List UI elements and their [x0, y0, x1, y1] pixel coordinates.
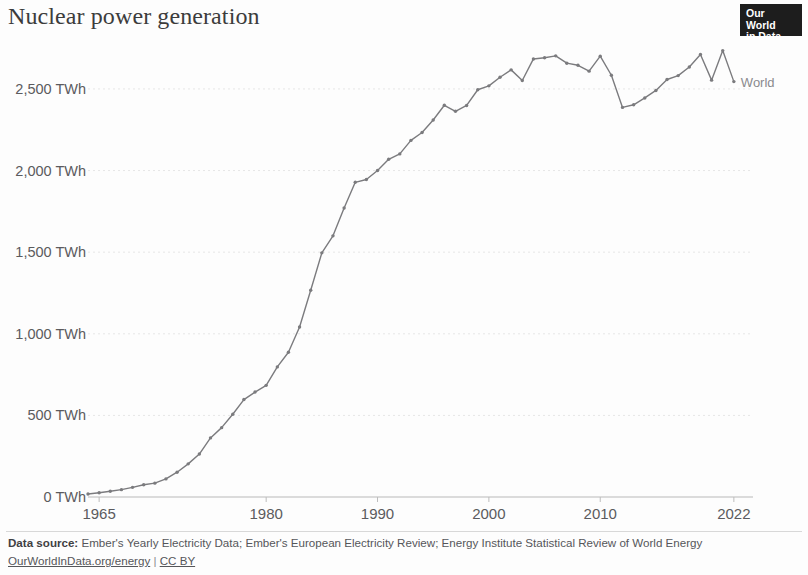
y-tick-label: 0 TWh — [44, 489, 86, 505]
data-point[interactable] — [287, 351, 290, 354]
data-point[interactable] — [476, 88, 479, 91]
data-point[interactable] — [487, 84, 490, 87]
data-point[interactable] — [264, 384, 267, 387]
data-point[interactable] — [543, 56, 546, 59]
data-point[interactable] — [164, 477, 167, 480]
data-point[interactable] — [175, 470, 178, 473]
x-axis-line — [99, 497, 734, 502]
data-point[interactable] — [86, 492, 89, 495]
data-point[interactable] — [521, 79, 524, 82]
data-point[interactable] — [498, 76, 501, 79]
data-point[interactable] — [699, 53, 702, 56]
y-tick-label: 1,500 TWh — [15, 244, 86, 260]
data-point[interactable] — [365, 178, 368, 181]
y-tick-label: 2,000 TWh — [15, 163, 86, 179]
data-point[interactable] — [242, 398, 245, 401]
data-point[interactable] — [97, 491, 100, 494]
x-tick-label: 1980 — [249, 505, 282, 522]
x-tick-label: 2000 — [472, 505, 505, 522]
data-point[interactable] — [409, 139, 412, 142]
data-point[interactable] — [443, 104, 446, 107]
data-point[interactable] — [198, 452, 201, 455]
x-tick-label: 1990 — [361, 505, 394, 522]
footer: Data source: Ember's Yearly Electricity … — [8, 534, 802, 569]
chart-page: Nuclear power generation Our World in Da… — [0, 0, 808, 575]
data-point[interactable] — [465, 104, 468, 107]
data-point[interactable] — [532, 57, 535, 60]
data-point[interactable] — [432, 118, 435, 121]
plot-area: 0 TWh500 TWh1,000 TWh1,500 TWh2,000 TWh2… — [0, 0, 808, 535]
data-point[interactable] — [309, 289, 312, 292]
data-point[interactable] — [420, 131, 423, 134]
series-label-world: World — [741, 74, 775, 89]
data-point[interactable] — [298, 325, 301, 328]
data-point[interactable] — [320, 251, 323, 254]
data-point[interactable] — [220, 426, 223, 429]
data-point[interactable] — [398, 152, 401, 155]
footer-links: OurWorldInData.org/energy | CC BY — [8, 552, 802, 569]
data-point[interactable] — [632, 103, 635, 106]
x-tick-label: 1965 — [82, 505, 115, 522]
data-point[interactable] — [376, 169, 379, 172]
data-source-text: Ember's Yearly Electricity Data; Ember's… — [81, 536, 702, 549]
data-point[interactable] — [721, 49, 724, 52]
data-point[interactable] — [276, 365, 279, 368]
x-tick-label: 2022 — [717, 505, 750, 522]
y-tick-label: 500 TWh — [27, 407, 86, 423]
y-tick-label: 2,500 TWh — [15, 81, 86, 97]
data-point[interactable] — [654, 89, 657, 92]
gridlines — [88, 89, 753, 497]
data-point[interactable] — [387, 158, 390, 161]
data-point[interactable] — [209, 436, 212, 439]
data-point[interactable] — [187, 462, 190, 465]
data-point[interactable] — [665, 78, 668, 81]
footer-separator: | — [153, 554, 156, 567]
data-point[interactable] — [732, 80, 735, 83]
data-point[interactable] — [131, 486, 134, 489]
data-point[interactable] — [120, 488, 123, 491]
footer-divider — [6, 531, 802, 532]
owid-energy-link[interactable]: OurWorldInData.org/energy — [8, 554, 150, 567]
data-point[interactable] — [331, 234, 334, 237]
data-point[interactable] — [342, 206, 345, 209]
data-source-label: Data source: — [8, 536, 78, 549]
data-point[interactable] — [142, 483, 145, 486]
data-point[interactable] — [554, 54, 557, 57]
data-point[interactable] — [610, 74, 613, 77]
line-chart-svg — [0, 0, 808, 535]
license-link[interactable]: CC BY — [160, 554, 195, 567]
series-lines — [88, 51, 734, 494]
data-point[interactable] — [231, 413, 234, 416]
data-point[interactable] — [688, 65, 691, 68]
data-point[interactable] — [109, 490, 112, 493]
data-point[interactable] — [565, 61, 568, 64]
data-source-line: Data source: Ember's Yearly Electricity … — [8, 534, 802, 551]
series-markers — [86, 49, 735, 496]
data-point[interactable] — [354, 181, 357, 184]
data-point[interactable] — [621, 106, 624, 109]
data-point[interactable] — [710, 78, 713, 81]
data-point[interactable] — [599, 54, 602, 57]
y-tick-label: 1,000 TWh — [15, 326, 86, 342]
data-point[interactable] — [509, 68, 512, 71]
data-point[interactable] — [153, 481, 156, 484]
data-point[interactable] — [587, 69, 590, 72]
x-tick-label: 2010 — [584, 505, 617, 522]
data-point[interactable] — [454, 110, 457, 113]
data-point[interactable] — [253, 390, 256, 393]
series-line-world — [88, 51, 734, 494]
data-point[interactable] — [676, 74, 679, 77]
data-point[interactable] — [576, 64, 579, 67]
data-point[interactable] — [643, 96, 646, 99]
